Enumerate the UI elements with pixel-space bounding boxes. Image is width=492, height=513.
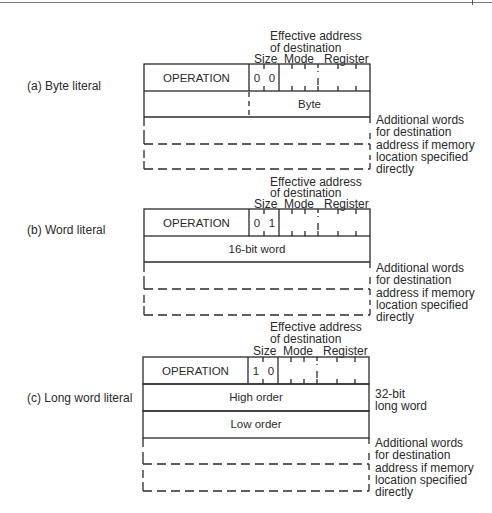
operation-field: OPERATION xyxy=(143,365,248,378)
note-line: for destination xyxy=(376,126,475,138)
low-order-field: Low order xyxy=(143,418,369,431)
note-line: directly xyxy=(376,311,475,323)
note-line: long word xyxy=(375,400,427,412)
operation-field: OPERATION xyxy=(144,217,249,230)
col-mode-label: Mode xyxy=(283,345,313,357)
col-register-label: Register xyxy=(323,345,368,357)
size-bit-1: 0 xyxy=(251,72,263,85)
col-size-label: Size xyxy=(253,345,276,357)
note-line: directly xyxy=(375,486,474,498)
byte-field: Byte xyxy=(249,98,370,111)
col-size-label: Size xyxy=(254,198,277,210)
note-line: for destination xyxy=(376,274,475,286)
size-bit-0: 0 xyxy=(266,72,278,85)
col-mode-label: Mode xyxy=(284,198,314,210)
size-bit-0: 1 xyxy=(266,217,278,230)
col-mode-label: Mode xyxy=(284,53,314,65)
size-bit-1: 0 xyxy=(251,217,263,230)
additional-words-note: Additional words for destination address… xyxy=(376,114,475,175)
col-size-label: Size xyxy=(254,53,277,65)
panel-b-label: (b) Word literal xyxy=(27,224,105,237)
additional-words-note: Additional words for destination address… xyxy=(376,262,475,323)
col-register-label: Register xyxy=(324,53,369,65)
panel-a-label: (a) Byte literal xyxy=(27,80,101,93)
high-order-field: High order xyxy=(143,391,369,404)
additional-words-note: Additional words for destination address… xyxy=(375,437,474,498)
note-line: directly xyxy=(376,163,475,175)
long-word-note: 32-bit long word xyxy=(375,388,427,413)
panel-c-label: (c) Long word literal xyxy=(27,392,132,405)
operation-field: OPERATION xyxy=(144,72,249,85)
size-bit-0: 0 xyxy=(265,365,277,378)
note-line: for destination xyxy=(375,449,474,461)
size-bit-1: 1 xyxy=(250,365,262,378)
col-register-label: Register xyxy=(324,198,369,210)
word-field: 16-bit word xyxy=(144,243,370,256)
